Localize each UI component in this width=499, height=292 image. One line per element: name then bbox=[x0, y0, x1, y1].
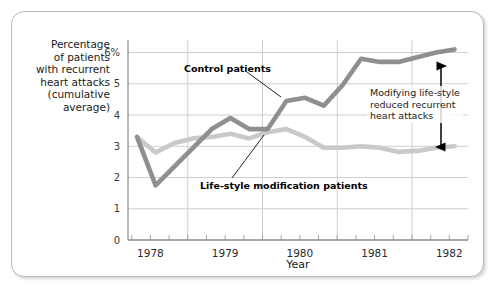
lifestyle-patients-callout: Life-style modification patients bbox=[200, 180, 368, 191]
gap-note-line-3: heart attacks bbox=[370, 110, 460, 122]
gap-note: Modifying life-style reduced recurrent h… bbox=[367, 86, 463, 123]
x-tick-label: 1978 bbox=[137, 247, 164, 259]
screenshot-root: Percentage of patients with recurrent he… bbox=[0, 0, 499, 292]
control-patients-callout: Control patients bbox=[184, 63, 271, 74]
x-axis-ticks: 19781979198019811982 bbox=[132, 235, 468, 259]
control-callout-leader-line bbox=[247, 72, 281, 97]
y-tick-label: 3 bbox=[114, 141, 120, 152]
x-axis-title: Year bbox=[285, 258, 310, 271]
y-tick-label: 0 bbox=[114, 235, 120, 246]
y-tick-label: 4 bbox=[114, 110, 120, 121]
y-tick-label: 5 bbox=[114, 78, 120, 89]
lifestyle-callout-leader-line bbox=[232, 135, 264, 178]
gap-note-line-2: reduced recurrent bbox=[370, 99, 460, 111]
y-tick-label: 2 bbox=[114, 172, 120, 183]
y-axis-ticks: 0123456% bbox=[104, 47, 120, 246]
x-tick-label: 1982 bbox=[436, 247, 463, 259]
series-line-lifestyle-modification-patients bbox=[137, 129, 455, 152]
x-tick-label: 1979 bbox=[212, 247, 239, 259]
x-tick-label: 1981 bbox=[361, 247, 388, 259]
line-chart-svg: 0123456% 19781979198019811982 Year bbox=[0, 0, 499, 292]
gap-note-line-1: Modifying life-style bbox=[370, 87, 460, 99]
y-tick-label: 6% bbox=[104, 47, 120, 58]
chart-area: 0123456% 19781979198019811982 Year bbox=[0, 0, 499, 292]
y-tick-label: 1 bbox=[114, 203, 120, 214]
